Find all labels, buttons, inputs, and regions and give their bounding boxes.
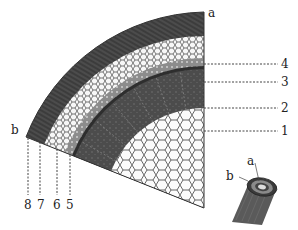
label-7: 7 <box>37 198 45 212</box>
label-3: 3 <box>281 75 289 89</box>
inset-label-a: a <box>247 154 254 168</box>
stem-cross-section-diagram: a b 4 3 2 1 8 7 6 5 a b <box>0 0 298 230</box>
label-a: a <box>208 6 215 20</box>
label-4: 4 <box>281 57 289 71</box>
right-leaders <box>204 64 278 131</box>
inset-label-b: b <box>226 169 234 183</box>
label-5: 5 <box>66 198 74 212</box>
label-1: 1 <box>281 124 289 138</box>
label-8: 8 <box>24 198 32 212</box>
stem-inset <box>232 163 278 225</box>
label-6: 6 <box>53 198 61 212</box>
label-b: b <box>11 123 19 137</box>
label-2: 2 <box>281 101 289 115</box>
